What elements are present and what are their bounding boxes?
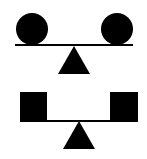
left-circle-weight <box>16 13 48 45</box>
scale-squares <box>20 92 138 149</box>
right-circle-weight <box>101 13 133 45</box>
right-square-weight <box>110 92 138 121</box>
beam <box>15 44 133 46</box>
fulcrum-triangle <box>58 46 90 74</box>
scale-circles <box>15 13 133 74</box>
left-square-weight <box>20 92 47 121</box>
fulcrum-triangle <box>63 121 95 149</box>
diagram-canvas <box>0 0 147 159</box>
